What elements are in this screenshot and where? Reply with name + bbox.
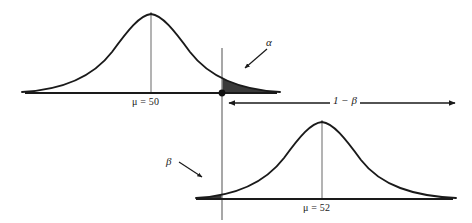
critical-value-dot [219, 90, 226, 97]
beta-pointer-arrow [179, 162, 202, 177]
mu-null-label: μ = 50 [132, 96, 159, 107]
mu-alternative-label: μ = 52 [303, 202, 330, 213]
diagram-canvas [0, 0, 472, 223]
alternative-distribution-curve [196, 122, 456, 198]
hypothesis-test-error-diagram: μ = 50 μ = 52 α β 1 − β [0, 0, 472, 223]
power-label: 1 − β [330, 94, 360, 106]
alpha-label: α [266, 36, 272, 48]
beta-shaded-region [196, 122, 456, 199]
alpha-pointer-arrow [245, 49, 267, 68]
beta-label: β [166, 155, 171, 167]
